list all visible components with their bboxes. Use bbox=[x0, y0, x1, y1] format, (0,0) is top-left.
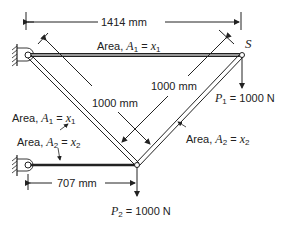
label-load-p2: P2 = 1000 N bbox=[111, 205, 171, 221]
pin-top-left bbox=[25, 52, 31, 58]
label-area-bottom: Area, A2 = x2 bbox=[17, 136, 80, 152]
label-area-left-diag: Area, A1 = x1 bbox=[12, 112, 75, 128]
label-dim-bottom: 707 mm bbox=[57, 177, 97, 189]
label-node-s: S bbox=[245, 38, 252, 50]
label-area-right-diag: Area, A2 = x2 bbox=[186, 133, 249, 149]
truss-diagram: 1414 mm 1000 mm 1000 mm 707 mm Area, A1 … bbox=[0, 0, 292, 229]
node-bottom bbox=[135, 163, 140, 168]
label-dim-top: 1414 mm bbox=[101, 16, 147, 28]
label-dim-right-diag: 1000 mm bbox=[151, 80, 197, 92]
pin-bottom-left bbox=[25, 162, 31, 168]
label-dim-left-diag: 1000 mm bbox=[92, 97, 138, 109]
node-s bbox=[240, 53, 245, 58]
label-load-p1: P1 = 1000 N bbox=[215, 92, 275, 108]
label-area-top: Area, A1 = x1 bbox=[97, 40, 160, 56]
member-right-diagonal bbox=[136, 54, 243, 166]
